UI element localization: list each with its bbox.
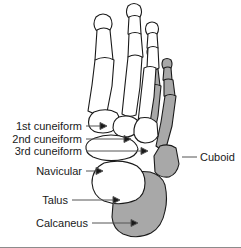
label-1st-cuneiform: 1st cuneiform (4, 120, 82, 132)
cuneiform-3-bone (134, 118, 158, 143)
label-navicular: Navicular (4, 165, 82, 177)
label-3rd-cuneiform: 3rd cuneiform (4, 145, 82, 157)
talus-bone (92, 161, 145, 204)
label-calcaneus: Calcaneus (4, 217, 88, 229)
metatarsal-2 (122, 55, 142, 116)
foot-skeleton-figure: 1st cuneiform 2nd cuneiform 3rd cuneifor… (0, 0, 241, 248)
label-cuboid: Cuboid (200, 151, 235, 163)
arrowhead-cuneiform-3 (141, 148, 148, 155)
label-2nd-cuneiform: 2nd cuneiform (4, 133, 82, 145)
metatarsal-1 (88, 58, 114, 114)
label-talus: Talus (4, 194, 68, 206)
cuboid-bone (154, 145, 179, 177)
